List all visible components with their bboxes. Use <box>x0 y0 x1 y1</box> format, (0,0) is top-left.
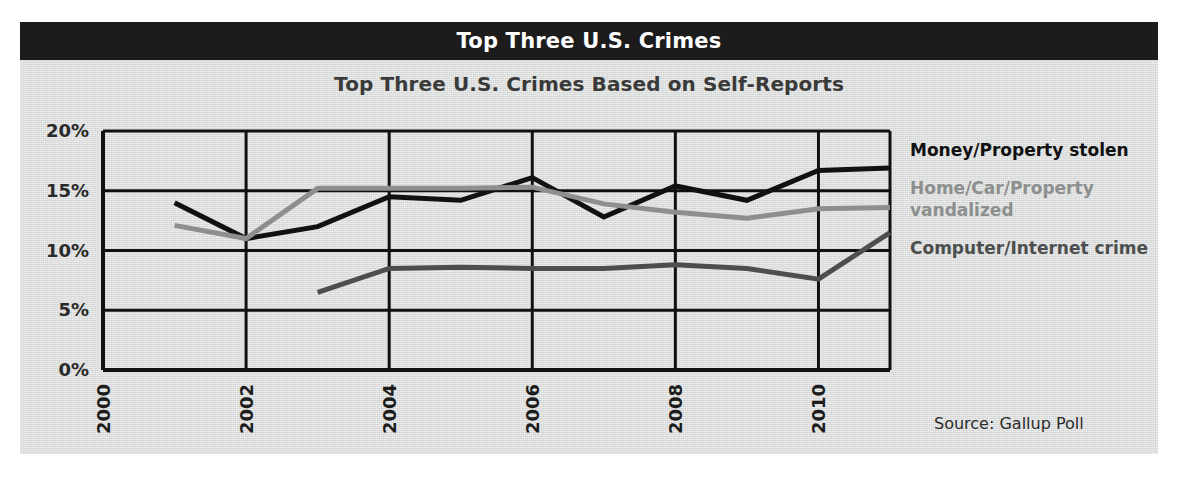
x-tick-label: 2004 <box>379 384 400 434</box>
chart-gridlines <box>103 131 890 370</box>
source-note: Source: Gallup Poll <box>934 414 1084 433</box>
y-tick-label: 5% <box>58 299 89 320</box>
chart-figure: Top Three U.S. Crimes Top Three U.S. Cri… <box>0 0 1177 479</box>
legend-item-home-car-property-vandalized: Home/Car/Property vandalized <box>910 178 1160 221</box>
legend-item-computer-internet-crime: Computer/Internet crime <box>910 238 1160 259</box>
x-axis-tick-labels: 200020022004200620082010 <box>93 384 829 434</box>
y-tick-label: 0% <box>58 359 89 380</box>
y-tick-label: 15% <box>46 180 89 201</box>
y-axis-tick-labels: 0%5%10%15%20% <box>46 120 89 380</box>
chart-legend: Money/Property stolen Home/Car/Property … <box>910 140 1160 277</box>
x-tick-label: 2010 <box>808 384 829 434</box>
x-tick-label: 2000 <box>93 384 114 434</box>
y-tick-label: 10% <box>46 240 89 261</box>
x-tick-label: 2002 <box>236 384 257 434</box>
series-line-2 <box>318 233 890 293</box>
legend-item-money-property-stolen: Money/Property stolen <box>910 140 1160 161</box>
y-tick-label: 20% <box>46 120 89 141</box>
x-tick-label: 2006 <box>522 384 543 434</box>
x-tick-label: 2008 <box>665 384 686 434</box>
